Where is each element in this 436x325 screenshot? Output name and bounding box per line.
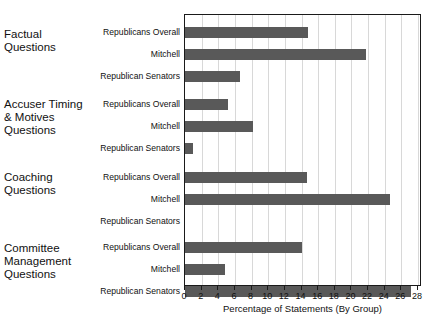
bar: [185, 49, 366, 60]
series-label: Mitchell: [86, 121, 180, 131]
series-label: Republican Senators: [86, 143, 180, 153]
bar: [185, 27, 308, 38]
x-tick: [301, 286, 302, 290]
x-tick: [317, 286, 318, 290]
x-tick: [184, 286, 185, 290]
plot-area: [184, 14, 421, 286]
bar: [185, 172, 307, 183]
x-tick: [367, 286, 368, 290]
series-label: Mitchell: [86, 264, 180, 274]
x-tick: [350, 286, 351, 290]
bar: [185, 143, 193, 154]
series-label: Republican Senators: [86, 216, 180, 226]
x-tick: [400, 286, 401, 290]
x-tick: [334, 286, 335, 290]
chart-page: FactualQuestionsAccuser Timing& MotivesQ…: [0, 0, 436, 325]
bar: [185, 121, 253, 132]
series-label: Republicans Overall: [86, 242, 180, 252]
bar: [185, 264, 225, 275]
x-tick: [384, 286, 385, 290]
x-tick: [267, 286, 268, 290]
x-tick: [417, 286, 418, 290]
series-label: Mitchell: [86, 194, 180, 204]
bar: [185, 99, 228, 110]
x-tick: [251, 286, 252, 290]
bar: [185, 194, 390, 205]
series-label: Republican Senators: [86, 71, 180, 81]
bar: [185, 71, 240, 82]
series-label: Mitchell: [86, 49, 180, 59]
x-tick: [284, 286, 285, 290]
x-axis: 0246810121416182022242628: [184, 286, 421, 292]
x-tick: [201, 286, 202, 290]
series-label: Republicans Overall: [86, 27, 180, 37]
series-label-column: Republicans OverallMitchellRepublican Se…: [86, 14, 180, 286]
x-tick: [217, 286, 218, 290]
x-tick: [234, 286, 235, 290]
series-label: Republican Senators: [86, 286, 180, 296]
series-label: Republicans Overall: [86, 172, 180, 182]
x-axis-title: Percentage of Statements (By Group): [184, 303, 421, 314]
bars-layer: [185, 15, 420, 285]
bar: [185, 242, 302, 253]
series-label: Republicans Overall: [86, 99, 180, 109]
x-tick-label: 28: [407, 291, 427, 301]
